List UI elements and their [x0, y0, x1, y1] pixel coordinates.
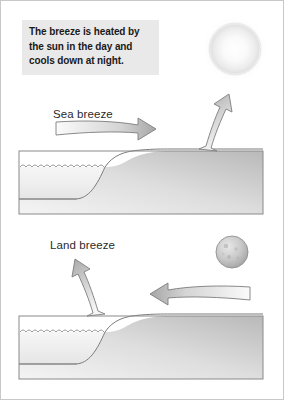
moon-icon: [216, 236, 248, 268]
night-panel: [19, 236, 263, 379]
breeze-diagram: The breeze is heated by the sun in the d…: [0, 0, 284, 400]
caption-line-3: cools down at night.: [29, 54, 157, 69]
caption-line-2: the sun in the day and: [29, 40, 157, 55]
land-terrain-icon: [19, 314, 263, 379]
caption-line-1: The breeze is heated by: [29, 25, 157, 40]
land-breeze-label: Land breeze: [50, 239, 115, 251]
water-surface-icon: [20, 165, 104, 167]
sun-icon: [201, 15, 269, 83]
land-terrain-icon: [19, 149, 263, 214]
water-surface-icon: [20, 330, 104, 332]
arrow-up-icon: [72, 259, 105, 316]
arrow-up-icon: [199, 94, 232, 151]
sea-breeze-label: Sea breeze: [53, 108, 113, 120]
caption-text: The breeze is heated by the sun in the d…: [29, 25, 157, 69]
arrow-left-icon: [150, 283, 250, 305]
arrow-right-icon: [56, 118, 156, 140]
